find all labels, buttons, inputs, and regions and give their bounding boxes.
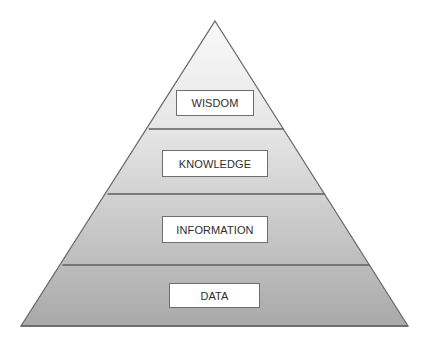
- wisdom-text: WISDOM: [191, 97, 238, 109]
- data-text: DATA: [200, 290, 228, 302]
- dikw-pyramid-diagram: WISDOM KNOWLEDGE INFORMATION DATA: [0, 0, 427, 342]
- knowledge-text: KNOWLEDGE: [179, 158, 251, 170]
- level-label-wisdom: WISDOM: [176, 90, 254, 116]
- level-label-information: INFORMATION: [162, 216, 268, 243]
- information-text: INFORMATION: [176, 224, 253, 236]
- level-label-knowledge: KNOWLEDGE: [162, 150, 268, 177]
- level-label-data: DATA: [169, 283, 260, 308]
